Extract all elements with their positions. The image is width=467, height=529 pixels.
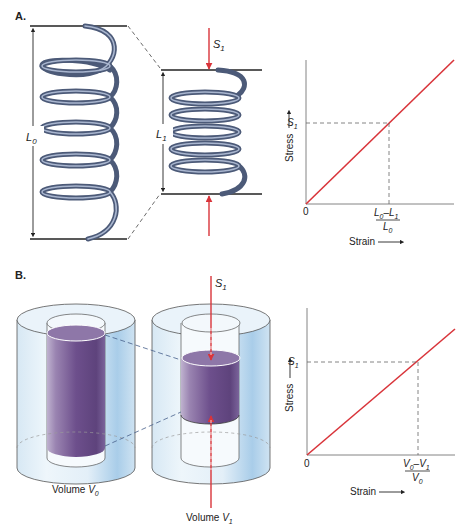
connector-bottom — [128, 194, 160, 239]
compressed-spring: L1 — [155, 70, 262, 194]
volume-v1-label: Volume V1 — [186, 512, 233, 525]
graph-a-xlabel: Strain — [349, 236, 375, 247]
panel-b-label: B. — [15, 269, 26, 281]
diagram-canvas: A. L0 — [0, 0, 467, 529]
graph-b: S1 0 Stress V0–V1 V0 Strain — [284, 308, 455, 497]
graph-a-origin: 0 — [303, 206, 309, 217]
stress-s1-label-b: S1 — [215, 277, 227, 292]
graph-b-x-tick-numerator: V0–V1 — [403, 458, 430, 471]
stress-s1-label-a: S1 — [213, 38, 225, 53]
relaxed-spring: L0 — [24, 26, 127, 239]
volume-v0-label: Volume V0 — [52, 484, 99, 497]
graph-b-xlabel: Strain — [350, 486, 376, 497]
graph-a-stress-line — [306, 60, 454, 204]
cylinder-v0 — [17, 304, 135, 484]
connector-top — [128, 26, 160, 68]
graph-a-x-tick-denominator: L0 — [383, 221, 393, 234]
graph-b-ylabel: Stress — [284, 384, 295, 412]
panel-a-label: A. — [15, 10, 26, 22]
graph-a-x-tick-numerator: L0–L1 — [374, 207, 399, 220]
graph-b-stress-line — [307, 329, 455, 455]
graph-a-ylabel: Stress — [284, 134, 295, 162]
graph-a: S1 0 Stress L0–L1 L0 Strain — [284, 60, 454, 247]
graph-b-x-tick-denominator: V0 — [412, 472, 423, 485]
graph-b-origin: 0 — [304, 458, 310, 469]
